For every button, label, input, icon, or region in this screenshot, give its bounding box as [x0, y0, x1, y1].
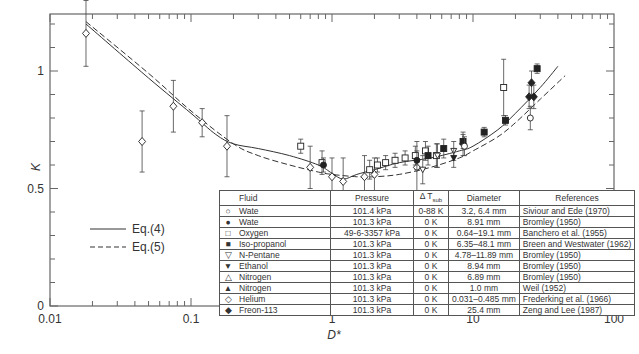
open-circle-marker-icon — [461, 143, 467, 149]
table-row: ●Wate101.3 kPa0 K8.91 mmBromley (1950) — [220, 216, 635, 227]
table-row: □Oxygen49-6-3357 kPa0 K0.64–19.1 mmBanch… — [220, 227, 635, 238]
data-points — [82, 1, 540, 205]
y-axis-label: K — [29, 162, 43, 171]
marker-symbol-icon: ○ — [220, 205, 237, 216]
diameter-cell: 4.78–11.89 mm — [449, 249, 520, 260]
fluid-cell: Wate — [236, 216, 331, 227]
reference-cell: Bromley (1950) — [519, 260, 635, 271]
legend-table-header: Fluid Pressure Δ Tsub Diameter Reference… — [220, 191, 635, 206]
dt-sub-cell: 0 K — [414, 238, 449, 249]
dt-sub-cell: 0 K — [414, 293, 449, 304]
filled-circle-marker-icon — [320, 162, 326, 168]
pressure-cell: 101.4 kPa — [331, 205, 414, 216]
table-row: △Nitrogen101.3 kPa0 K6.89 mmBromley (195… — [220, 271, 635, 282]
pressure-cell: 101.3 kPa — [331, 293, 414, 304]
symbol-header — [220, 191, 237, 206]
marker-symbol-icon: ◇ — [220, 293, 237, 304]
reference-cell: Bromley (1950) — [519, 216, 635, 227]
marker-symbol-icon: ▲ — [220, 282, 237, 293]
fluid-cell: Wate — [236, 205, 331, 216]
open-diamond-marker-icon — [139, 138, 146, 146]
reference-cell: Banchero et al. (1955) — [519, 227, 635, 238]
reference-cell: Breen and Westwater (1962) — [519, 238, 635, 249]
references-header: References — [519, 191, 635, 206]
reference-cell: Bromley (1950) — [519, 249, 635, 260]
pressure-cell: 101.3 kPa — [331, 304, 414, 315]
y-tick-label: 1 — [37, 64, 44, 78]
dt-header-main: Δ T — [420, 191, 433, 201]
filled-square-marker-icon — [481, 129, 487, 135]
diameter-cell: 3.2, 6.4 mm — [449, 205, 520, 216]
pressure-cell: 101.3 kPa — [331, 271, 414, 282]
table-row: ○Wate101.4 kPa0-88 K3.2, 6.4 mmSiviour a… — [220, 205, 635, 216]
reference-cell: Zeng and Lee (1987) — [519, 304, 635, 315]
pressure-cell: 101.3 kPa — [331, 216, 414, 227]
dt-header-sub: sub — [433, 197, 443, 203]
open-diamond-marker-icon — [223, 142, 230, 150]
pressure-cell: 101.3 kPa — [331, 282, 414, 293]
fluid-cell: N-Pentane — [236, 249, 331, 260]
fluid-cell: Ethanol — [236, 260, 331, 271]
reference-cell: Weil (1952) — [519, 282, 635, 293]
open-square-marker-icon — [298, 143, 304, 149]
open-diamond-marker-icon — [361, 173, 368, 181]
diameter-cell: 8.94 mm — [449, 260, 520, 271]
table-row: ▲Nitrogen101.3 kPa0 K1.0 mmWeil (1952) — [220, 282, 635, 293]
line-legend: Eq.(4) Eq.(5) — [90, 222, 165, 254]
eq5-legend-label: Eq.(5) — [132, 240, 165, 254]
marker-symbol-icon: ■ — [220, 238, 237, 249]
fluid-cell: Nitrogen — [236, 271, 331, 282]
diameter-cell: 6.35–48.1 mm — [449, 238, 520, 249]
marker-symbol-icon: ▽ — [220, 249, 237, 260]
table-row: ▽N-Pentane101.3 kPa0 K4.78–11.89 mmBroml… — [220, 249, 635, 260]
open-triangle-down-marker-icon — [420, 167, 426, 173]
open-square-marker-icon — [367, 167, 373, 173]
filled-square-marker-icon — [534, 66, 540, 72]
eq4-legend-label: Eq.(4) — [132, 222, 165, 236]
filled-square-marker-icon — [441, 146, 447, 152]
dt-header: Δ Tsub — [414, 191, 449, 206]
table-row: ◇Helium101.3 kPa0 K0.031–0.485 mmFrederk… — [220, 293, 635, 304]
dt-sub-cell: 0 K — [414, 271, 449, 282]
fluid-cell: Nitrogen — [236, 282, 331, 293]
open-square-marker-icon — [374, 162, 380, 168]
table-row: ◆Freon-113101.3 kPa0 K25.4 mmZeng and Le… — [220, 304, 635, 315]
open-diamond-marker-icon — [170, 102, 177, 110]
marker-symbol-icon: ▼ — [220, 260, 237, 271]
reference-cell: Frederking et al. (1966) — [519, 293, 635, 304]
marker-symbol-icon: ● — [220, 216, 237, 227]
dt-sub-cell: 0 K — [414, 216, 449, 227]
table-row: ▼Ethanol101.3 kPa0 K8.94 mmBromley (1950… — [220, 260, 635, 271]
fluid-cell: Oxygen — [236, 227, 331, 238]
eq5-curve — [86, 22, 565, 177]
y-tick-label: 0.5 — [27, 182, 44, 196]
open-circle-marker-icon — [527, 115, 533, 121]
dt-sub-cell: 0 K — [414, 282, 449, 293]
table-row: ■Iso-propanol101.3 kPa0 K6.35–48.1 mmBre… — [220, 238, 635, 249]
diameter-cell: 0.031–0.485 mm — [449, 293, 520, 304]
pressure-cell: 101.3 kPa — [331, 260, 414, 271]
reference-cell: Bromley (1950) — [519, 271, 635, 282]
pressure-cell: 101.3 kPa — [331, 249, 414, 260]
open-square-marker-icon — [501, 84, 507, 90]
pressure-cell: 49-6-3357 kPa — [331, 227, 414, 238]
x-tick-label: 0.01 — [38, 312, 62, 326]
marker-symbol-icon: △ — [220, 271, 237, 282]
pressure-header: Pressure — [331, 191, 414, 206]
open-square-marker-icon — [383, 160, 389, 166]
fluid-header: Fluid — [236, 191, 331, 206]
curves — [86, 22, 565, 179]
open-square-marker-icon — [392, 157, 398, 163]
dt-sub-cell: 0 K — [414, 249, 449, 260]
dt-sub-cell: 0 K — [414, 304, 449, 315]
diameter-header: Diameter — [449, 191, 520, 206]
x-tick-label: 0.1 — [183, 312, 200, 326]
marker-symbol-icon: □ — [220, 227, 237, 238]
open-square-marker-icon — [402, 155, 408, 161]
diameter-cell: 25.4 mm — [449, 304, 520, 315]
diameter-cell: 6.89 mm — [449, 271, 520, 282]
open-diamond-marker-icon — [307, 163, 314, 171]
fluid-cell: Freon-113 — [236, 304, 331, 315]
dt-sub-cell: 0-88 K — [414, 205, 449, 216]
fluid-cell: Iso-propanol — [236, 238, 331, 249]
